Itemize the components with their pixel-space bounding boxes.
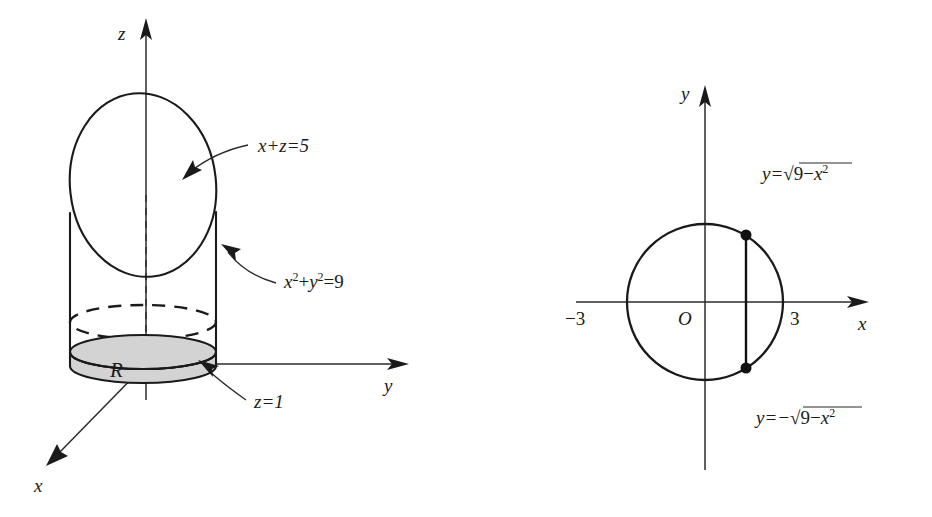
label-cylinder-equation: x2+y2=9 [283,270,344,292]
top-tilted-ellipse-plane-cut [61,86,225,284]
region-R-shaded-disk [70,335,216,383]
z-axis-label: z [117,23,126,44]
label-region-R: R [109,358,123,382]
y-axis-label: y [382,375,393,396]
math-figure: x+z=5 x2+y2=9 z=1 R z y x [0,0,932,517]
upper-label-radicand-exponent: 2 [822,162,828,176]
right-y-axis [699,85,711,470]
right-panel-region-R: y=√9−x2 y=−√9−x2 O −3 3 x y [565,83,869,470]
annotation-plane-x-plus-z-equals-5: x+z=5 [182,135,309,180]
upper-label-radical: √ [783,163,794,184]
figure-canvas: x+z=5 x2+y2=9 z=1 R z y x [0,0,932,517]
annotation-upper-boundary: y=√9−x2 [760,162,852,184]
lower-label-radical: √ [790,407,801,428]
upper-boundary-point [741,230,752,241]
label-plane-equation: x+z=5 [257,135,309,156]
svg-text:y=−√9−x2: y=−√9−x2 [754,406,835,428]
label-z-equals-1: z=1 [253,391,284,412]
upper-label-radicand-a: 9− [794,163,814,184]
z-equals-one-dashed-ellipse [70,305,216,339]
annotation-lower-boundary: y=−√9−x2 [754,406,862,428]
right-x-axis [576,296,869,308]
svg-text:y=√9−x2: y=√9−x2 [760,162,828,184]
x-axis-label: x [33,475,43,496]
tick-label-negative-three: −3 [565,308,585,329]
upper-label-lhs: y= [760,163,783,184]
left-panel-3d-solid: x+z=5 x2+y2=9 z=1 R z y x [33,18,409,496]
lower-label-lhs: y=− [754,407,790,428]
origin-label-O: O [678,308,692,329]
lower-boundary-point [741,363,752,374]
lower-label-radicand-a: 9− [801,407,821,428]
cylinder-eq-rhs: =9 [324,271,344,292]
annotation-cylinder-equation: x2+y2=9 [221,244,344,292]
cylinder-eq-plus: + [298,271,309,292]
right-y-axis-label: y [679,83,690,104]
cylinder-eq-y: y [307,271,318,292]
annotation-z-equals-1: z=1 [198,360,284,412]
right-x-axis-label: x [857,313,867,334]
tick-label-three: 3 [790,308,800,329]
lower-label-radicand-exponent: 2 [829,406,835,420]
